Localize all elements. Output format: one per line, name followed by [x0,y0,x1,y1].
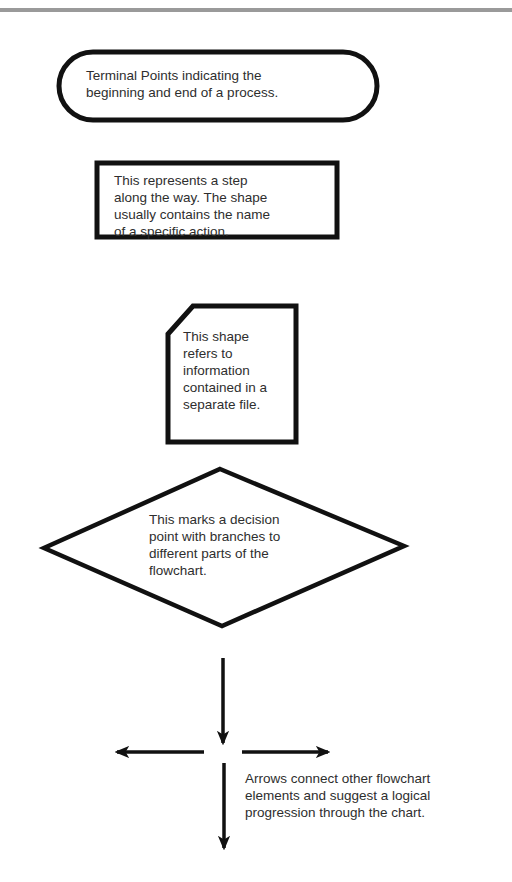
document-description: This shape refers to information contain… [183,328,293,413]
terminal-description: Terminal Points indicating the beginning… [86,67,366,101]
arrows-description: Arrows connect other flowchart elements … [245,770,505,821]
decision-description: This marks a decision point with branche… [149,511,299,579]
process-description: This represents a step along the way. Th… [114,172,334,240]
flowchart-diagram [0,0,512,882]
